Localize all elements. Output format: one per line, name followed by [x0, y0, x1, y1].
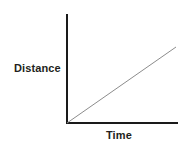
y-axis-label: Distance: [14, 62, 61, 74]
distance-time-graph: Distance Time: [0, 0, 182, 145]
data-line-distance-vs-time: [67, 47, 176, 123]
x-axis-label: Time: [106, 129, 132, 141]
